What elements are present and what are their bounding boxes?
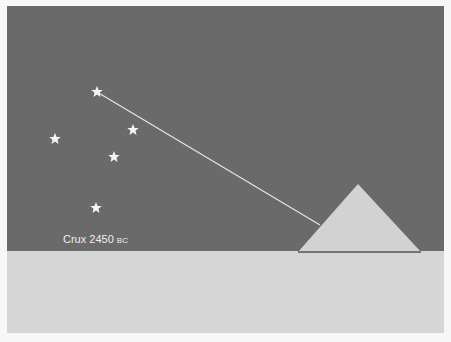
- crux-pyramid-diagram: Crux 2450 BC: [7, 6, 444, 333]
- ground: [7, 251, 444, 333]
